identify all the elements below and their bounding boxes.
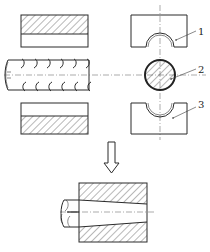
upper-die-side-view <box>21 15 88 47</box>
callout-label-1: 1 <box>198 26 204 37</box>
callout-3: 3 <box>172 99 204 119</box>
rebar-cross-section <box>145 60 175 90</box>
callout-label-2: 2 <box>198 64 204 75</box>
lower-die-front-view <box>131 103 187 134</box>
technical-diagram: 1 2 3 <box>0 0 210 252</box>
lower-die-side-view <box>21 103 88 134</box>
callout-1: 1 <box>175 26 204 41</box>
upper-die-front-view <box>131 15 187 47</box>
callout-label-3: 3 <box>198 99 204 110</box>
rebar-end <box>61 200 79 227</box>
arrow-down-icon <box>104 142 119 173</box>
